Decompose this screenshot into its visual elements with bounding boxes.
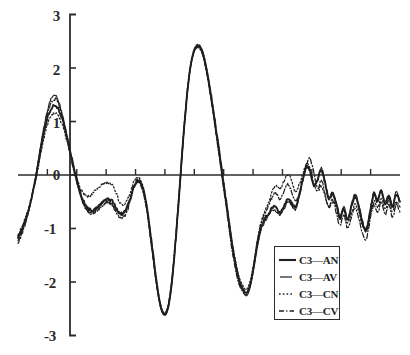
legend-label-1: C3—AV [299, 271, 337, 283]
chart-container: 3 2 1 0 -1 -2 -3 C3—AN C3—AV C3—CN [0, 0, 410, 355]
legend-item-2: C3—CN [275, 285, 339, 302]
legend-line-solid-thin-icon [279, 272, 296, 282]
y-tick-label-3: 3 [34, 9, 60, 24]
series-layer [18, 44, 400, 315]
waveform-plot [0, 0, 410, 355]
legend-line-dotted-icon [279, 289, 296, 299]
y-tick-label-0: 0 [34, 168, 60, 183]
legend-item-3: C3—CV [275, 302, 339, 319]
legend-label-3: C3—CV [299, 305, 338, 317]
y-tick-label-2: 2 [34, 63, 60, 78]
y-tick-label-neg2: -2 [30, 276, 56, 291]
y-tick-label-1: 1 [34, 116, 60, 131]
legend-label-0: C3—AN [299, 254, 338, 266]
series-line-C3-CV [18, 47, 400, 313]
legend-label-2: C3—CN [299, 288, 338, 300]
legend-item-0: C3—AN [275, 251, 339, 268]
legend-item-1: C3—AV [275, 268, 339, 285]
legend: C3—AN C3—AV C3—CN C3—CV [274, 246, 340, 320]
y-tick-label-neg3: -3 [30, 329, 56, 344]
y-tick-label-neg1: -1 [30, 222, 56, 237]
legend-line-dashdot-icon [279, 306, 296, 316]
legend-line-solid-thick-icon [279, 255, 296, 265]
